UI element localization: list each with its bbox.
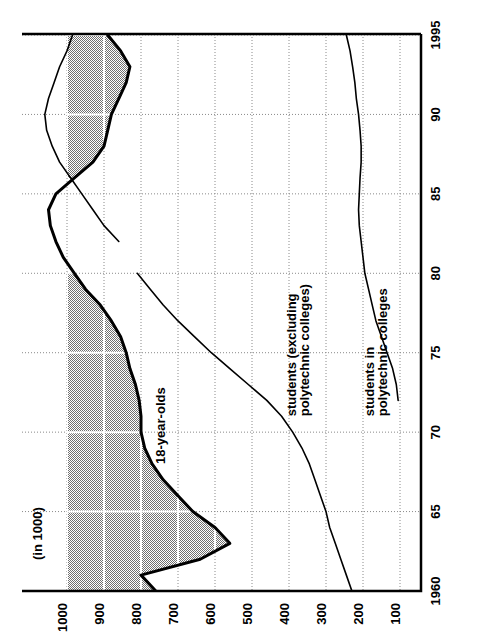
series-annotation: 18-year-olds bbox=[153, 387, 168, 464]
series-annotation: polytechnic colleges bbox=[375, 288, 390, 416]
year-tick-label: 1995 bbox=[428, 21, 443, 50]
value-tick-label: 100 bbox=[388, 603, 403, 625]
value-tick-label: 300 bbox=[314, 603, 329, 625]
value-tick-label: 900 bbox=[92, 603, 107, 625]
value-tick-label: 800 bbox=[129, 603, 144, 625]
year-tick-label: 90 bbox=[428, 107, 443, 121]
year-tick-label: 85 bbox=[428, 187, 443, 201]
value-tick-label: 700 bbox=[166, 603, 181, 625]
value-tick-label: 400 bbox=[277, 603, 292, 625]
year-tick-label: 70 bbox=[428, 425, 443, 439]
year-tick-label: 80 bbox=[428, 266, 443, 280]
series-annotation: polytechnic colleges) bbox=[297, 284, 312, 416]
education-statistics-chart: 1002003004005006007008009001000196065707… bbox=[0, 0, 479, 642]
year-tick-label: 75 bbox=[428, 345, 443, 359]
value-tick-label: 1000 bbox=[55, 603, 70, 632]
unit-label: (in 1000) bbox=[30, 507, 45, 560]
value-tick-label: 200 bbox=[351, 603, 366, 625]
value-tick-label: 500 bbox=[240, 603, 255, 625]
year-tick-label: 65 bbox=[428, 504, 443, 518]
value-tick-label: 600 bbox=[203, 603, 218, 625]
year-tick-label: 1960 bbox=[428, 577, 443, 606]
chart-canvas: 1002003004005006007008009001000196065707… bbox=[0, 0, 479, 642]
